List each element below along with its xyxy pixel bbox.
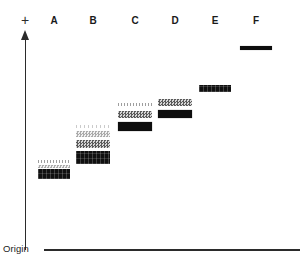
band-d2 — [158, 110, 192, 118]
band-a1 — [38, 160, 70, 163]
band-b3 — [76, 140, 110, 148]
electrophoresis-gel-figure: + Origin ABCDEF — [0, 0, 307, 274]
lane-f — [240, 0, 272, 274]
lane-c — [118, 0, 152, 274]
band-c2 — [118, 111, 152, 118]
band-c3 — [118, 122, 152, 131]
origin-label: Origin — [3, 243, 29, 254]
band-d1 — [158, 99, 192, 106]
band-a3 — [38, 169, 70, 179]
anode-plus-label: + — [18, 13, 32, 27]
band-b4 — [76, 151, 110, 164]
lane-b — [76, 0, 110, 274]
migration-direction-arrow — [25, 33, 26, 250]
band-e1 — [199, 85, 231, 92]
band-b2 — [76, 131, 110, 137]
lane-d — [158, 0, 192, 274]
lane-e — [199, 0, 231, 274]
band-f1 — [240, 46, 272, 50]
band-b1 — [76, 125, 110, 128]
band-c1 — [118, 103, 152, 106]
lane-a — [38, 0, 70, 274]
band-a2 — [38, 165, 70, 168]
